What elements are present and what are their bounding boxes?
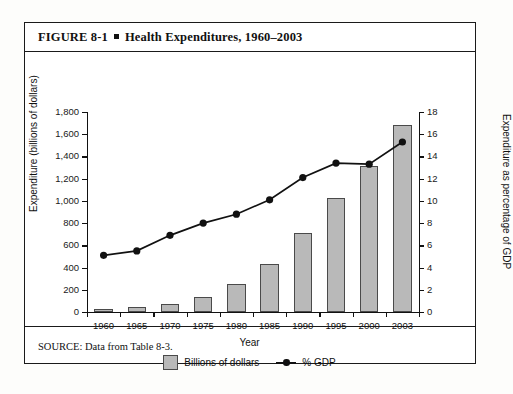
y-tick-label-right: 8 (427, 218, 432, 228)
y-tick-label-right: 18 (427, 107, 438, 117)
y-tick-right (419, 223, 424, 224)
gdp-point (233, 211, 240, 218)
x-tick (153, 312, 154, 317)
gdp-point (366, 161, 373, 168)
figure-title: FIGURE 8-1Health Expenditures, 1960–2003 (38, 30, 302, 45)
x-tick (220, 312, 221, 317)
y-tick-label-left: 200 (63, 285, 79, 295)
y-tick-right (419, 268, 424, 269)
y-tick-label-right: 14 (427, 152, 438, 162)
figure-source-bar: SOURCE: Data from Table 8-3. (25, 326, 475, 365)
y-tick-label-right: 2 (427, 285, 432, 295)
y-axis-right-title: Expenditure as percentage of GDP (501, 114, 512, 269)
gdp-point-markers (100, 138, 406, 259)
figure-box: FIGURE 8-1Health Expenditures, 1960–2003… (24, 22, 476, 364)
x-tick (286, 312, 287, 317)
x-tick (419, 312, 420, 317)
figure-title-bar: FIGURE 8-1Health Expenditures, 1960–2003 (25, 23, 475, 52)
figure-title-text: Health Expenditures, 1960–2003 (125, 30, 303, 44)
gdp-point (266, 196, 273, 203)
y-tick-right (419, 201, 424, 202)
y-tick-label-right: 16 (427, 129, 438, 139)
x-tick (120, 312, 121, 317)
y-axis-right-line (419, 112, 420, 312)
y-tick-label-left: 0 (74, 307, 79, 317)
y-tick-label-left: 1,200 (55, 174, 79, 184)
y-tick-right (419, 245, 424, 246)
plot-area: 02004006008001,0001,2001,4001,6001,800 0… (87, 112, 419, 312)
y-tick-right (419, 179, 424, 180)
y-tick-right (419, 156, 424, 157)
y-axis-left-title: Expenditure (billions of dollars) (28, 75, 39, 212)
y-tick-label-left: 600 (63, 241, 79, 251)
gdp-point (100, 252, 107, 259)
y-tick-label-left: 1,600 (55, 129, 79, 139)
gdp-point (332, 160, 339, 167)
y-tick-label-right: 0 (427, 307, 432, 317)
x-tick (353, 312, 354, 317)
gdp-point (166, 232, 173, 239)
y-tick-label-left: 400 (63, 263, 79, 273)
line-series (87, 112, 419, 312)
y-tick-label-left: 1,000 (55, 196, 79, 206)
y-tick-label-right: 6 (427, 241, 432, 251)
gdp-line-path (104, 142, 403, 255)
x-tick (187, 312, 188, 317)
figure-number: FIGURE 8-1 (38, 30, 108, 44)
y-tick-label-left: 1,400 (55, 152, 79, 162)
chart-area: Expenditure (billions of dollars) Expend… (25, 52, 475, 326)
y-tick-right (419, 290, 424, 291)
y-tick-label-right: 4 (427, 263, 432, 273)
y-tick-label-left: 1,800 (55, 107, 79, 117)
gdp-point (299, 174, 306, 181)
figure-source-text: SOURCE: Data from Table 8-3. (38, 341, 173, 352)
y-tick-label-left: 800 (63, 218, 79, 228)
x-tick (253, 312, 254, 317)
x-tick (319, 312, 320, 317)
y-tick-label-right: 12 (427, 174, 438, 184)
square-bullet-icon (114, 34, 119, 39)
y-tick-right (419, 134, 424, 135)
y-tick-label-right: 10 (427, 196, 438, 206)
gdp-point (133, 247, 140, 254)
x-tick (87, 312, 88, 317)
x-tick (386, 312, 387, 317)
gdp-point (200, 220, 207, 227)
y-tick-right (419, 112, 424, 113)
gdp-point (399, 138, 406, 145)
